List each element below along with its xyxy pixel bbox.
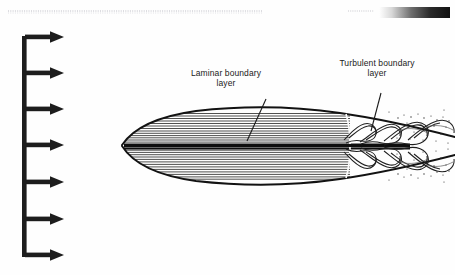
- turbulent-leader-line: [371, 93, 381, 131]
- freestream-velocity-profile: [22, 31, 64, 261]
- freestream-arrow-row: [25, 213, 64, 225]
- freestream-arrow-row: [25, 67, 64, 79]
- laminar-boundary-layer-label: Laminar boundary layer: [168, 68, 284, 88]
- laminar-leader-line: [247, 99, 266, 141]
- freestream-arrow-row: [25, 103, 64, 115]
- freestream-arrow-row: [25, 176, 64, 188]
- figure-canvas: Laminar boundary layer Turbulent boundar…: [0, 0, 455, 275]
- turbulent-boundary-layer-label: Turbulent boundary layer: [318, 58, 436, 78]
- body-lower-contour: [122, 146, 455, 185]
- scan-artifact-gradient-bar: [379, 7, 450, 18]
- body-centerline-core: [124, 144, 410, 148]
- freestream-arrow-row: [25, 31, 64, 43]
- scan-artifact-dotted-rule: [8, 11, 262, 13]
- freestream-arrow-row: [25, 249, 64, 261]
- boundary-layer-diagram: [0, 0, 455, 275]
- freestream-arrow-row: [25, 139, 64, 151]
